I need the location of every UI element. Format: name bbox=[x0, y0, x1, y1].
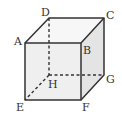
vertex-label-D: D bbox=[41, 6, 50, 19]
vertex-label-E: E bbox=[16, 101, 24, 114]
vertex-label-B: B bbox=[83, 44, 91, 57]
vertex-label-G: G bbox=[106, 73, 115, 86]
vertex-label-F: F bbox=[82, 101, 90, 114]
vertex-label-A: A bbox=[13, 35, 23, 48]
cube-diagram: D C A B H G E F bbox=[0, 0, 122, 116]
vertex-label-H: H bbox=[48, 78, 58, 91]
vertex-label-C: C bbox=[106, 9, 114, 22]
